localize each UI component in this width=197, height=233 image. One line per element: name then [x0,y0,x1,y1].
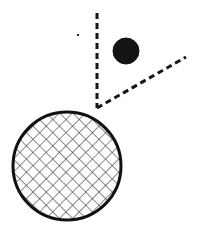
diagram-canvas [0,0,197,233]
figure-root: Geometric line drawing: angle with dashe… [0,0,197,233]
small-filled-circle [113,38,139,64]
tiny-stray-dot [77,34,79,36]
